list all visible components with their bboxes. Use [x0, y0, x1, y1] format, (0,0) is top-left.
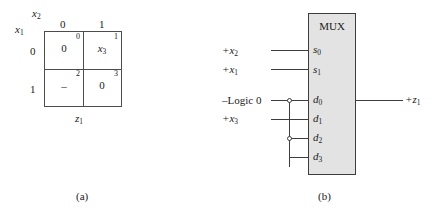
- caption-b: (b): [318, 191, 331, 202]
- kmap-cell-2: 2 –: [45, 69, 83, 106]
- mux-pin-d1-sub: 1: [319, 117, 323, 126]
- kmap-output-sub: 1: [79, 117, 83, 126]
- kmap-cell-value-base-0: 0: [61, 42, 67, 54]
- junction-dot-d0: [287, 98, 292, 103]
- kmap-top-variable-label: x2: [32, 8, 41, 21]
- mux-pin-s0-sub: 0: [317, 48, 321, 57]
- wire-bus-to-d3: [289, 157, 309, 158]
- output-label-z1-base: +z: [405, 93, 417, 105]
- input-label-x2-sub: 2: [234, 49, 238, 58]
- mux-pin-d2-sub: 2: [319, 136, 323, 145]
- kmap-cell-index-1: 1: [114, 33, 118, 41]
- mux-pin-d1-label: d1: [313, 113, 322, 126]
- kmap-output-label: z1: [75, 113, 83, 126]
- kmap-left-variable-sub: 1: [20, 28, 24, 37]
- figure-container: x2 x1 0 1 0 1 0 0 1 x3 2 – 3: [0, 0, 436, 220]
- input-label-x1-base: +x: [222, 63, 234, 75]
- wire-output-z1: [356, 100, 403, 101]
- kmap-cell-index-3: 3: [114, 70, 118, 78]
- mux-pin-d3-sub: 3: [319, 155, 323, 164]
- mux-pin-s1-sub: 1: [317, 68, 321, 77]
- mux-pin-d2-label: d2: [313, 132, 322, 145]
- wire-bus-to-d2: [289, 138, 309, 139]
- input-label-x2: +x2: [222, 45, 238, 58]
- input-label-x1-sub: 1: [234, 68, 238, 77]
- input-label-x3-sub: 3: [234, 117, 238, 126]
- input-label-logic0-base: –Logic 0: [222, 94, 261, 106]
- input-label-x3: +x3: [222, 113, 238, 126]
- mux-pin-s1-label: s1: [313, 64, 321, 77]
- kmap-grid: 0 0 1 x3 2 – 3 0: [44, 31, 122, 107]
- kmap-cell-value-3: 0: [83, 80, 121, 91]
- kmap-cell-3: 3 0: [83, 69, 121, 106]
- kmap-top-variable-sub: 2: [37, 12, 41, 21]
- input-label-x1: +x1: [222, 64, 238, 77]
- kmap-row-header-1: 1: [30, 84, 36, 95]
- output-label-z1: +z1: [405, 94, 420, 107]
- karnaugh-map-panel: x2 x1 0 1 0 1 0 0 1 x3 2 – 3: [0, 0, 218, 220]
- kmap-cell-value-1: x3: [83, 43, 121, 56]
- junction-dot-d2: [287, 136, 292, 141]
- kmap-cell-index-2: 2: [76, 70, 80, 78]
- kmap-cell-value-0: 0: [45, 43, 83, 54]
- kmap-cell-value-base-3: 0: [99, 79, 105, 91]
- wire-x1-to-s1: [271, 69, 309, 70]
- kmap-column-header-0: 0: [60, 19, 66, 30]
- kmap-cell-value-2: –: [45, 81, 83, 92]
- kmap-cell-1: 1 x3: [83, 32, 121, 69]
- kmap-cell-value-base-2: –: [61, 80, 67, 92]
- mux-title-label: MUX: [308, 20, 356, 32]
- kmap-cell-index-0: 0: [76, 33, 80, 41]
- mux-schematic-panel: MUX s0 s1 d0 d1 d2 d3 +x2 +x1 –Logic 0 +…: [218, 0, 436, 220]
- output-label-z1-sub: 1: [417, 98, 421, 107]
- mux-pin-s0-label: s0: [313, 44, 321, 57]
- mux-pin-d0-sub: 0: [319, 98, 323, 107]
- kmap-row-header-0: 0: [30, 46, 36, 57]
- input-label-x2-base: +x: [222, 44, 234, 56]
- mux-pin-d3-label: d3: [313, 151, 322, 164]
- kmap-column-header-1: 1: [99, 19, 105, 30]
- input-label-x3-base: +x: [222, 112, 234, 124]
- input-label-logic0: –Logic 0: [222, 95, 261, 106]
- mux-pin-d0-label: d0: [313, 94, 322, 107]
- wire-x2-to-s0: [271, 50, 309, 51]
- kmap-cell-value-sub-1: 3: [103, 47, 107, 56]
- kmap-left-variable-label: x1: [15, 24, 24, 37]
- caption-a: (a): [76, 191, 88, 202]
- kmap-cell-0: 0 0: [45, 32, 83, 69]
